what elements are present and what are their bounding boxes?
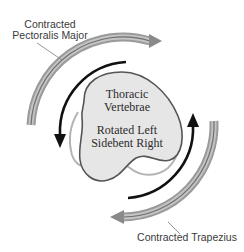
pectoralis-arrowhead-icon [149,34,162,48]
diagram-canvas: Contracted Pectoralis Major Thoracic Ver… [0,0,244,252]
trapezius-label: Contracted Trapezius [137,231,237,243]
vertebra-state-line1: Rotated Left [97,123,158,137]
rotation-arrowhead-up-icon [187,113,199,127]
rotation-arrowhead-down-icon [54,134,66,148]
pectoralis-leader-line [37,43,62,60]
vertebra-name-line2: Vertebrae [104,100,150,114]
trapezius-arrowhead-icon [110,210,124,224]
vertebra-state-line2: Sidebent Right [91,136,163,150]
pectoralis-label-line2: Pectoralis Major [12,29,88,41]
vertebra-name-line1: Thoracic [106,87,149,101]
